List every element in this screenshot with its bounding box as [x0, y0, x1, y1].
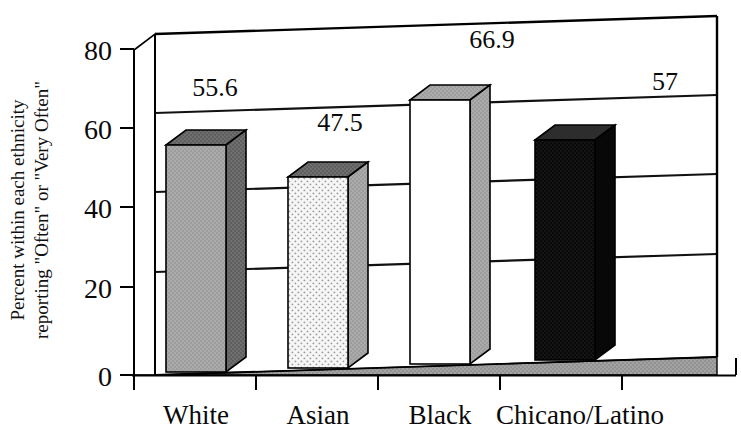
x-category-label-asian: Asian — [287, 400, 350, 430]
y-axis — [120, 49, 134, 376]
bar-black[interactable] — [410, 85, 490, 364]
data-label-white: 55.6 — [192, 73, 238, 102]
bar-white[interactable] — [166, 130, 246, 372]
y-axis-label-line2: reporting "Often" or "Very Often" — [31, 81, 52, 339]
bar-white-side — [226, 130, 246, 372]
bar-asian-side — [348, 162, 368, 368]
bar-white-front — [166, 145, 226, 372]
data-label-chicano-latino: 57 — [652, 67, 678, 96]
data-label-black: 66.9 — [469, 25, 515, 54]
y-tick-label-80: 80 — [84, 35, 112, 66]
bar-chart-figure: Percent within each ethnicity reporting … — [0, 0, 741, 441]
x-category-label-white: White — [163, 400, 229, 430]
y-axis-label: Percent within each ethnicity reporting … — [7, 81, 52, 339]
bar-chicano-latino-front — [535, 140, 595, 360]
y-axis-label-line1: Percent within each ethnicity — [7, 99, 28, 321]
bar-asian-front — [288, 177, 348, 368]
left-wall-plane — [134, 34, 155, 375]
bar-chicano-latino[interactable] — [535, 125, 615, 360]
bar-asian[interactable] — [288, 162, 368, 368]
y-tick-label-40: 40 — [84, 193, 112, 224]
bar-black-front — [410, 100, 470, 364]
plot-left-wall — [134, 34, 155, 375]
y-tick-label-0: 0 — [98, 361, 112, 392]
data-label-asian: 47.5 — [317, 108, 363, 137]
x-category-label-chicano-latino: Chicano/Latino — [496, 400, 664, 430]
x-category-label-black: Black — [409, 400, 472, 430]
y-tick-label-60: 60 — [84, 114, 112, 145]
bar-black-side — [470, 85, 490, 364]
chart-container: Percent within each ethnicity reporting … — [0, 0, 741, 441]
y-tick-labels: 80 60 40 20 0 — [84, 35, 112, 392]
y-tick-label-20: 20 — [84, 273, 112, 304]
x-category-labels: White Asian Black Chicano/Latino — [163, 400, 664, 430]
bar-chicano-latino-side — [595, 125, 615, 360]
